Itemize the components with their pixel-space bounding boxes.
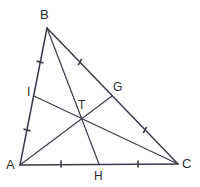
tick-mark-ai bbox=[24, 129, 31, 131]
midpoint-label-h: H bbox=[94, 170, 103, 182]
median-c-to-i bbox=[34, 96, 178, 164]
midpoint-label-g: G bbox=[113, 81, 122, 93]
midpoint-label-i: I bbox=[27, 86, 30, 98]
triangle-sides bbox=[20, 28, 178, 165]
vertex-label-a: A bbox=[6, 158, 15, 171]
tick-mark-ib bbox=[37, 61, 44, 63]
vertex-label-c: C bbox=[182, 157, 191, 170]
side-ab bbox=[20, 28, 47, 165]
median-a-to-g bbox=[20, 96, 112, 165]
median-b-to-h bbox=[47, 28, 99, 164]
geometry-figure: A B C G H I T bbox=[0, 0, 200, 187]
vertex-label-b: B bbox=[40, 8, 49, 21]
centroid-label-t: T bbox=[78, 99, 85, 111]
